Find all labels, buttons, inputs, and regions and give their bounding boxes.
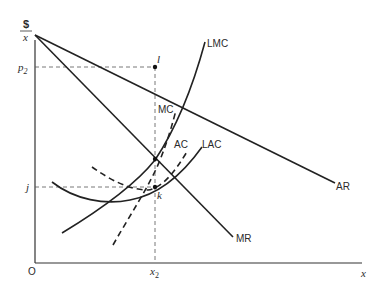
ar-label: AR: [336, 181, 350, 192]
p2-label: p2: [17, 61, 28, 76]
y-axis-label-x: x: [22, 31, 28, 43]
ar-curve: [35, 35, 335, 183]
mr-label: MR: [236, 233, 252, 244]
point-mc-mr-intersection: [153, 157, 157, 161]
mr-curve: [35, 35, 233, 237]
point-l: [153, 65, 157, 69]
lac-label: LAC: [202, 139, 221, 150]
ac-curve: [92, 150, 188, 190]
j-label: j: [24, 181, 29, 193]
economics-diagram: $ x x O p2 j x2 AR MR LMC MC AC LAC l k: [0, 0, 385, 286]
x2-label: x2: [149, 265, 159, 280]
x-axis-label: x: [360, 267, 366, 279]
point-k-label: k: [157, 189, 163, 201]
origin-label: O: [28, 266, 36, 277]
y-axis-label-dollar: $: [23, 18, 29, 30]
lmc-curve: [62, 42, 205, 233]
point-l-label: l: [157, 53, 160, 65]
lmc-label: LMC: [207, 38, 228, 49]
mc-curve: [113, 110, 176, 245]
ac-label: AC: [174, 139, 188, 150]
lac-curve: [52, 147, 202, 202]
mc-label: MC: [158, 104, 174, 115]
